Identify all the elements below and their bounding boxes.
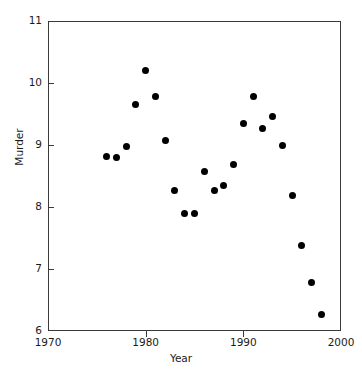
scatter-plot-figure: Murder Year 678910111970198019902000: [0, 0, 362, 377]
x-tick-label: 1990: [213, 336, 273, 348]
y-tick-label: 9: [16, 139, 42, 150]
x-axis-label: Year: [0, 352, 362, 364]
y-tick-label: 10: [16, 77, 42, 88]
x-tick-label: 1980: [116, 336, 176, 348]
y-tick-label: 8: [16, 201, 42, 212]
x-tick-mark: [146, 331, 147, 337]
x-tick-label: 1970: [18, 336, 78, 348]
x-tick-mark: [243, 331, 244, 337]
y-tick-label: 11: [16, 15, 42, 26]
y-tick-mark: [48, 83, 54, 84]
x-tick-label: 2000: [311, 336, 362, 348]
y-tick-label: 6: [16, 325, 42, 336]
y-tick-mark: [48, 269, 54, 270]
y-tick-label: 7: [16, 263, 42, 274]
y-tick-mark: [48, 207, 54, 208]
plot-area-frame: [48, 21, 341, 331]
y-tick-mark: [48, 145, 54, 146]
